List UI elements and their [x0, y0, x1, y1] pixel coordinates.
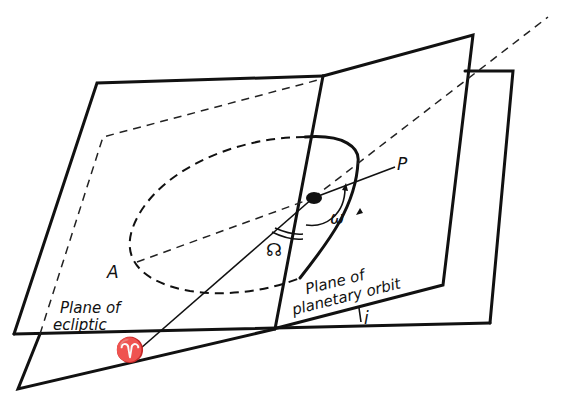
ecliptic-plane-lower-flap [18, 329, 275, 389]
ecliptic-plane [14, 71, 513, 389]
ecliptic-label-line2: ecliptic [53, 316, 107, 334]
front-panel-outline [14, 76, 323, 334]
inclination-arc [359, 308, 361, 322]
hidden-frame-dashed [40, 80, 318, 334]
inclination-label: i [364, 308, 369, 328]
ecliptic-plane-right-edge [465, 71, 513, 323]
node-direction-dashed [313, 17, 548, 198]
ecliptic-front-panel [14, 76, 323, 334]
node-angle-arc-inner [275, 228, 303, 234]
aphelion-label: A [106, 262, 119, 282]
omega-label: ω [330, 208, 344, 228]
ascending-node-symbol: ☊ [266, 239, 282, 260]
vernal-equinox-symbol: ♈ [115, 336, 145, 364]
orbital-elements-diagram: P A ♈ ☊ ω i Plane of ecliptic Plane of p… [0, 0, 578, 401]
orbit-ellipse-hidden [130, 137, 305, 293]
orbit-direction-arrow-icon [356, 208, 363, 215]
apse-line-dashed [137, 198, 313, 262]
sun-icon [306, 192, 322, 204]
ecliptic-label-line1: Plane of [60, 299, 123, 317]
perihelion-label: P [397, 154, 408, 174]
apse-line-to-perihelion [313, 167, 395, 198]
